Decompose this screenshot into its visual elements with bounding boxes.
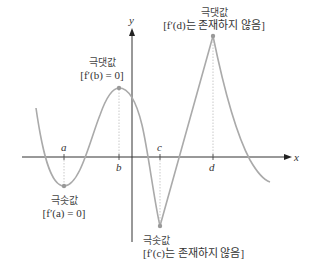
- annotation-condition: [f′(a) = 0]: [34, 207, 94, 220]
- annotation-title: 극댓값: [158, 6, 270, 19]
- annotation-condition: [f′(d)는 존재하지 않음]: [158, 19, 270, 32]
- tick-label-d: d: [209, 161, 215, 174]
- annotation-local-min-a: 극솟값 [f′(a) = 0]: [34, 194, 94, 220]
- annotation-condition: [f′(b) = 0]: [72, 69, 132, 82]
- tick-label-b: b: [116, 161, 122, 174]
- x-axis-label: x: [294, 151, 299, 164]
- tick-label-c: c: [157, 141, 162, 154]
- annotation-title: 극솟값: [143, 234, 244, 247]
- annotation-condition: [f′(c)는 존재하지 않음]: [143, 247, 244, 260]
- point-max-b: [117, 86, 121, 90]
- tick-label-a: a: [61, 141, 67, 154]
- point-min-c: [158, 224, 162, 228]
- annotation-title: 극댓값: [72, 56, 132, 69]
- annotation-local-min-c: 극솟값 [f′(c)는 존재하지 않음]: [143, 234, 244, 260]
- annotation-local-max-d: 극댓값 [f′(d)는 존재하지 않음]: [158, 6, 270, 32]
- point-min-a: [62, 184, 66, 188]
- y-axis-arrow-icon: [129, 28, 135, 36]
- annotation-title: 극솟값: [34, 194, 94, 207]
- y-axis-label: y: [129, 14, 134, 27]
- point-max-d: [211, 34, 215, 38]
- annotation-local-max-b: 극댓값 [f′(b) = 0]: [72, 56, 132, 82]
- x-axis-arrow-icon: [284, 154, 292, 160]
- extrema-diagram: [0, 0, 310, 271]
